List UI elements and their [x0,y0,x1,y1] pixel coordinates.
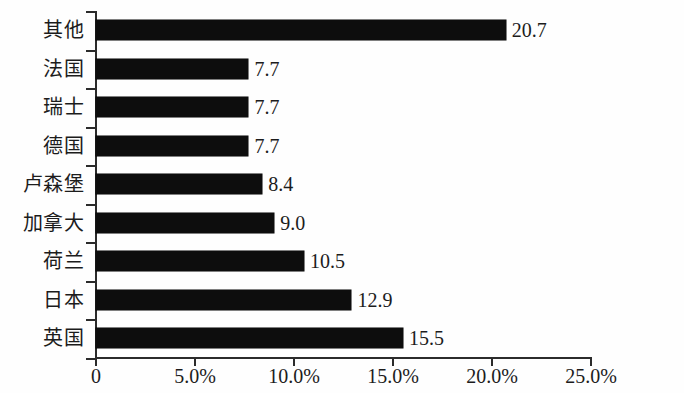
bar-row: 荷兰10.5 [0,242,684,281]
bar [96,251,304,271]
bar [96,20,506,40]
bar-row: 加拿大9.0 [0,204,684,243]
category-label: 英国 [0,328,84,348]
bar-row: 瑞士7.7 [0,88,684,127]
x-axis-tick-label: 0 [91,366,101,386]
x-axis-tick-label: 25.0% [565,366,617,386]
bar-row: 法国7.7 [0,50,684,89]
bar-row: 日本12.9 [0,281,684,320]
bar-value-label: 8.4 [268,174,293,194]
bar [96,136,248,156]
bar-row: 其他20.7 [0,11,684,50]
category-label: 法国 [0,59,84,79]
bar-value-label: 9.0 [280,213,305,233]
bar-chart: 其他20.7法国7.7瑞士7.7德国7.7卢森堡8.4加拿大9.0荷兰10.5日… [0,0,684,393]
bar [96,213,274,233]
category-label: 瑞士 [0,97,84,117]
x-axis-tick-label: 20.0% [466,366,518,386]
bar-row: 德国7.7 [0,127,684,166]
bar-row: 卢森堡8.4 [0,165,684,204]
bar [96,328,403,348]
category-label: 其他 [0,20,84,40]
bar-value-label: 10.5 [310,251,345,271]
category-label: 荷兰 [0,251,84,271]
bar [96,59,248,79]
x-axis-tick-label: 5.0% [174,366,216,386]
bar [96,174,262,194]
bar [96,290,351,310]
category-label: 日本 [0,290,84,310]
bar-value-label: 20.7 [512,20,547,40]
bar-value-label: 15.5 [409,328,444,348]
category-label: 卢森堡 [0,174,84,194]
category-label: 德国 [0,136,84,156]
category-label: 加拿大 [0,213,84,233]
bar-value-label: 7.7 [254,59,279,79]
x-axis-tick-label: 15.0% [367,366,419,386]
bar-value-label: 7.7 [254,136,279,156]
x-axis-tick-label: 10.0% [268,366,320,386]
bar-value-label: 7.7 [254,97,279,117]
bar-value-label: 12.9 [357,290,392,310]
bar-row: 英国15.5 [0,319,684,358]
bar [96,97,248,117]
